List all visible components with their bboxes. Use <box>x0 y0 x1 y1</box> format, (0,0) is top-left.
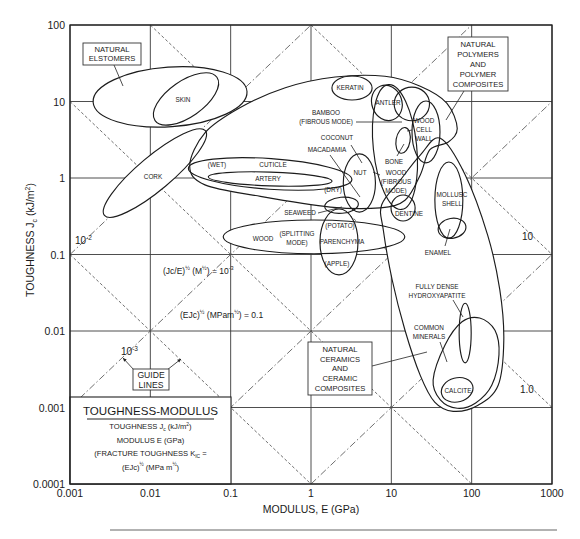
x-tick-label: 0.01 <box>140 487 161 499</box>
region-label-cork: CORK <box>144 173 163 180</box>
region-label-dentine: DENTINE <box>395 210 423 217</box>
region-label-keratin: KERATIN <box>336 84 364 91</box>
natural-polymers-label: NATURAL <box>461 40 496 49</box>
region-label-wood-splitting-mode: WOOD <box>253 235 274 242</box>
y-tick-label: 1 <box>59 172 65 184</box>
y-tick-label: 0.0001 <box>33 478 65 490</box>
guide-line-value-label: 10-2 <box>75 234 92 246</box>
region-label-artery: ARTERY <box>255 175 281 182</box>
natural-ceramics-label: CERAMICS <box>320 355 360 364</box>
legend-line: (EJc)½ (MPa m½) <box>122 461 180 471</box>
guide-line-equation: (EJc)½ (MPam½) = 0.1 <box>180 309 263 320</box>
region-label-macadamia: MACADAMIA <box>308 146 347 153</box>
region-label-fully-dense-hydroxyapatite: FULLY DENSE <box>415 283 458 290</box>
natural-polymers-label: POLYMER <box>460 70 497 79</box>
region-label-parenchyma: PARENCHYMA <box>320 238 365 245</box>
region-label-wood-fibrous-mode: (FIBROUS <box>381 178 412 186</box>
y-tick-label: 0.01 <box>45 325 66 337</box>
region-label-cuticle-wet: CUTICLE <box>259 161 286 168</box>
region-label-bamboo-fibrous-mode: (FIBROUS MODE) <box>299 118 353 126</box>
y-tick-label: 0.1 <box>50 249 65 261</box>
region-label-wood-splitting-mode: (SPLITTING <box>279 230 314 238</box>
region-label-bamboo-fibrous-mode: BAMBOO <box>312 109 340 116</box>
y-axis-label: TOUGHNESS Jc (kJ/m2) <box>24 183 38 297</box>
x-tick-label: 100 <box>463 487 481 499</box>
region-label-skin: SKIN <box>176 96 191 103</box>
x-axis-label: MODULUS, E (GPa) <box>263 503 359 515</box>
x-tick-label: 0.1 <box>223 487 238 499</box>
guide-line-value-label: 10 <box>522 231 534 242</box>
region-label-common-minerals: COMMON <box>414 324 444 331</box>
region-label-wood-cell-wall: CELL <box>416 126 432 133</box>
region-label-parenchyma: (APPLE) <box>325 260 350 268</box>
region-label-wood-cell-wall: WOOD <box>414 117 435 124</box>
legend-line: (FRACTURE TOUGHNESS KIC = <box>94 449 207 459</box>
region-label-wood-splitting-mode: MODE) <box>286 239 307 247</box>
region-label-seaweed: SEAWEED <box>284 209 316 216</box>
region-label-calcite: CALCITE <box>445 387 472 394</box>
guide-line-equation: (Jc/E)½ (M½) = 10-3 <box>163 265 234 276</box>
region-label-bone: BONE <box>385 158 403 165</box>
region-label-cuticle-wet: (WET) <box>208 161 226 169</box>
natural-ceramics-label: CERAMIC <box>322 374 358 383</box>
region-label-parenchyma: (POTATO) <box>325 222 354 230</box>
natural-polymers-label: COMPOSITES <box>453 80 504 89</box>
natural-ceramics-label: AND <box>332 364 349 373</box>
legend-layer: TOUGHNESS-MODULUSTOUGHNESS Jc (kJ/m2)MOD… <box>70 397 231 484</box>
y-tick-label: 0.001 <box>39 402 65 414</box>
natural-elastomers-label: ELSTOMERS <box>89 54 136 63</box>
natural-polymers-label: POLYMERS <box>457 50 499 59</box>
region-label-common-minerals: MINERALS <box>413 333 446 340</box>
natural-ceramics-label: NATURAL <box>323 345 358 354</box>
x-tick-label: 10 <box>385 487 397 499</box>
guide-lines-label: LINES <box>139 380 164 390</box>
y-tick-label: 10 <box>53 96 65 108</box>
region-label-wood-fibrous-mode: WOOD <box>386 169 407 176</box>
guide-line-value-label: 10-3 <box>121 345 138 357</box>
region-label-wood-cell-wall: WALL <box>415 135 433 142</box>
region-label-wood-fibrous-mode: MODE) <box>385 187 406 195</box>
toughness-modulus-figure: 10-210-3101.0(Jc/E)½ (M½) = 10-3(EJc)½ (… <box>0 0 580 539</box>
region-label-mollusc-shell: MOLLUSC <box>437 191 468 198</box>
x-tick-label: 1 <box>308 487 314 499</box>
legend-title: TOUGHNESS-MODULUS <box>83 404 218 417</box>
x-tick-label: 1000 <box>540 487 564 499</box>
guide-lines-label: GUIDE <box>137 370 164 380</box>
natural-ceramics-label: COMPOSITES <box>315 384 366 393</box>
region-label-enamel: ENAMEL <box>425 249 452 256</box>
region-label-mollusc-shell: SHELL <box>442 200 463 207</box>
legend-line: TOUGHNESS Jc (kJ/m2) <box>109 422 192 432</box>
region-label-fully-dense-hydroxyapatite: HYDROXYAPATITE <box>409 292 466 299</box>
legend-line: MODULUS E (GPa) <box>117 436 185 445</box>
region-label-coconut: COCONUT <box>321 134 353 141</box>
region-label-nut: NUT <box>353 169 366 176</box>
region-label-cuticle-wet: (DRY) <box>324 186 342 194</box>
natural-polymers-label: AND <box>470 60 487 69</box>
guide-line-value-label: 1.0 <box>520 384 534 395</box>
natural-elastomers-label: NATURAL <box>95 45 130 54</box>
y-tick-label: 100 <box>47 19 65 31</box>
toughness-modulus-chart: 10-210-3101.0(Jc/E)½ (M½) = 10-3(EJc)½ (… <box>0 0 580 539</box>
region-label-antler: ANTLER <box>375 99 401 106</box>
